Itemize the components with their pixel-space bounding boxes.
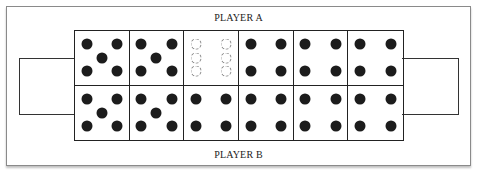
seed-icon <box>300 121 311 132</box>
seed-icon <box>136 39 147 50</box>
seed-icon <box>245 39 256 50</box>
pit-top-3[interactable] <box>184 31 239 86</box>
pit-top-4[interactable] <box>239 31 294 86</box>
seed-icon <box>81 94 92 105</box>
pit-top-6[interactable] <box>348 31 403 86</box>
seed-icon <box>275 94 286 105</box>
seed-icon <box>221 121 232 132</box>
seed-icon <box>81 121 92 132</box>
player-a-label: PLAYER A <box>0 12 477 23</box>
seed-icon <box>111 66 122 77</box>
right-store[interactable] <box>402 58 459 115</box>
seed-icon <box>275 39 286 50</box>
seed-icon <box>300 66 311 77</box>
seed-icon <box>300 39 311 50</box>
seed-icon <box>330 66 341 77</box>
pit-bottom-1[interactable] <box>75 86 130 141</box>
pit-bottom-2[interactable] <box>130 86 185 141</box>
seed-icon <box>81 66 92 77</box>
pit-bottom-4[interactable] <box>239 86 294 141</box>
pit-top-1[interactable] <box>75 31 130 86</box>
ghost-seed-icon <box>221 39 232 50</box>
seed-icon <box>355 39 366 50</box>
seed-icon <box>111 94 122 105</box>
seed-icon <box>96 107 107 118</box>
pit-bottom-3[interactable] <box>184 86 239 141</box>
seed-icon <box>166 94 177 105</box>
ghost-seed-icon <box>191 52 202 63</box>
seed-icon <box>136 66 147 77</box>
ghost-seed-icon <box>221 52 232 63</box>
seed-icon <box>166 121 177 132</box>
mancala-board <box>74 30 404 141</box>
seed-icon <box>385 66 396 77</box>
seed-icon <box>385 94 396 105</box>
seed-icon <box>355 121 366 132</box>
seed-icon <box>136 94 147 105</box>
seed-icon <box>385 39 396 50</box>
seed-icon <box>191 94 202 105</box>
pit-bottom-5[interactable] <box>294 86 349 141</box>
ghost-seed-icon <box>221 66 232 77</box>
seed-icon <box>330 121 341 132</box>
seed-icon <box>275 121 286 132</box>
seed-icon <box>385 121 396 132</box>
seed-icon <box>221 94 232 105</box>
ghost-seed-icon <box>191 66 202 77</box>
seed-icon <box>300 94 311 105</box>
seed-icon <box>136 121 147 132</box>
seed-icon <box>111 39 122 50</box>
seed-icon <box>151 107 162 118</box>
pit-top-5[interactable] <box>294 31 349 86</box>
seed-icon <box>166 39 177 50</box>
seed-icon <box>191 121 202 132</box>
seed-icon <box>245 121 256 132</box>
seed-icon <box>96 52 107 63</box>
seed-icon <box>166 66 177 77</box>
ghost-seed-icon <box>191 39 202 50</box>
seed-icon <box>151 52 162 63</box>
pit-bottom-6[interactable] <box>348 86 403 141</box>
seed-icon <box>355 94 366 105</box>
left-store[interactable] <box>19 58 75 115</box>
seed-icon <box>81 39 92 50</box>
seed-icon <box>330 94 341 105</box>
seed-icon <box>245 66 256 77</box>
player-b-label: PLAYER B <box>0 149 477 160</box>
pit-top-2[interactable] <box>130 31 185 86</box>
seed-icon <box>330 39 341 50</box>
seed-icon <box>355 66 366 77</box>
seed-icon <box>111 121 122 132</box>
seed-icon <box>245 94 256 105</box>
seed-icon <box>275 66 286 77</box>
